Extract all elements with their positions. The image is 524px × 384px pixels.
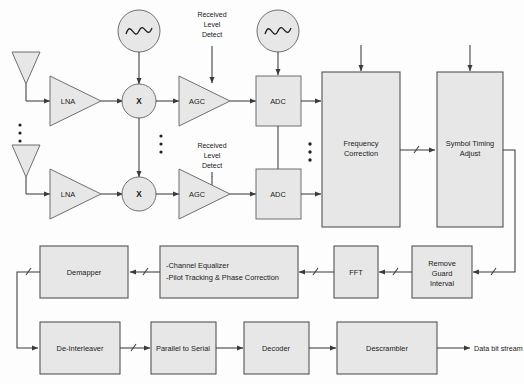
received-level-detect-top: Received Level Detect [197, 11, 226, 38]
received-level-detect-bottom: Received Level Detect [197, 142, 226, 169]
lna-top-label: LNA [61, 97, 75, 106]
demapper-label: Demapper [67, 268, 102, 277]
adc-top: ADC [256, 76, 301, 126]
symbol-timing-adjust-block: Symbol Timing Adjust [437, 72, 503, 227]
ellipsis-adc [308, 142, 311, 161]
block-diagram-canvas: LNA X Received Level Detect AGC ADC [0, 0, 524, 384]
data-bit-stream-label: Data bit stream [474, 344, 523, 353]
equalizer-line1: -Channel Equalizer [166, 261, 229, 270]
agc-top: AGC [179, 76, 230, 126]
ellipsis-mixer [159, 134, 162, 153]
lna-top: LNA [50, 76, 101, 126]
agc-top-label: AGC [189, 97, 206, 106]
ellipsis-antenna [18, 123, 21, 142]
frequency-correction-line1: Frequency [344, 139, 379, 148]
agc-bottom-label: AGC [189, 190, 206, 199]
descrambler-block: Descrambler [337, 322, 437, 374]
adc-top-label: ADC [270, 97, 286, 106]
equalizer-line2: -Pilot Tracking & Phase Correction [166, 273, 279, 282]
oscillator-bottom [257, 10, 299, 52]
decoder-block: Decoder [244, 322, 309, 374]
rld-top-line1: Received [197, 11, 226, 18]
frequency-correction-line2: Correction [344, 149, 378, 158]
rld-bottom-line3: Detect [202, 162, 222, 169]
symbol-timing-line2: Adjust [460, 149, 481, 158]
mixer-bottom-label: X [136, 190, 142, 199]
adc-bottom: ADC [256, 169, 301, 219]
mixer-bottom: X [122, 177, 156, 211]
adc-bottom-label: ADC [270, 190, 286, 199]
parallel-to-serial-block: Parallel to Serial [151, 322, 216, 374]
remove-guard-interval-block: Remove Guard Interval [412, 246, 472, 298]
rld-bottom-line2: Level [204, 152, 221, 159]
de-interleaver-label: De-Interleaver [57, 344, 104, 353]
rld-bottom-line1: Received [197, 142, 226, 149]
lna-bottom: LNA [50, 169, 101, 219]
demapper-block: Demapper [40, 246, 128, 298]
rld-top-line3: Detect [202, 31, 222, 38]
agc-bottom: AGC [179, 169, 230, 219]
parallel-to-serial-label: Parallel to Serial [156, 344, 210, 353]
descrambler-label: Descrambler [366, 344, 408, 353]
lna-bottom-label: LNA [61, 190, 75, 199]
remove-guard-line3: Interval [430, 279, 455, 288]
remove-guard-line2: Guard [432, 269, 453, 278]
mixer-top: X [122, 84, 156, 118]
antenna-icon-bottom [12, 145, 40, 194]
oscillator-top [118, 10, 160, 52]
symbol-timing-line1: Symbol Timing [446, 139, 494, 148]
remove-guard-line1: Remove [428, 259, 456, 268]
rld-top-line2: Level [204, 21, 221, 28]
fft-block: FFT [334, 246, 378, 298]
channel-equalizer-block: -Channel Equalizer -Pilot Tracking & Pha… [160, 246, 298, 298]
fft-label: FFT [349, 268, 363, 277]
frequency-correction-block: Frequency Correction [322, 72, 400, 227]
mixer-top-label: X [136, 97, 142, 106]
decoder-label: Decoder [262, 344, 290, 353]
de-interleaver-block: De-Interleaver [40, 322, 120, 374]
antenna-icon-top [12, 52, 40, 101]
